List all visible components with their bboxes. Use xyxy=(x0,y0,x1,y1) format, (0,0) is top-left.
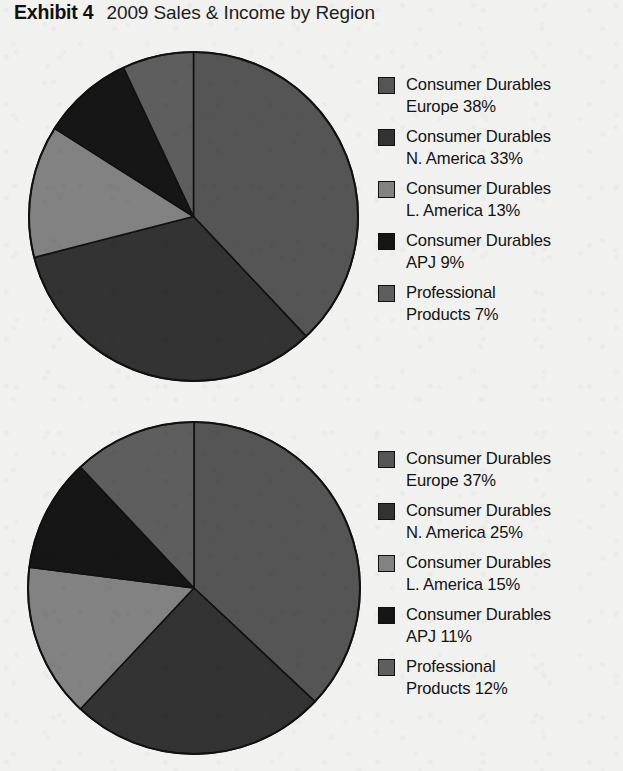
legend-swatch-icon xyxy=(378,285,395,302)
legend-label: Consumer Durables APJ 9% xyxy=(406,230,551,273)
legend-swatch-icon xyxy=(378,77,395,94)
legend-label: Consumer Durables N. America 25% xyxy=(406,500,551,543)
legend-item: Consumer Durables L. America 15% xyxy=(378,552,623,595)
legend-swatch-icon xyxy=(378,555,395,572)
legend-item: Consumer Durables N. America 33% xyxy=(378,126,623,169)
legend-swatch-icon xyxy=(378,607,395,624)
legend-swatch-icon xyxy=(378,129,395,146)
legend-item: Consumer Durables Europe 38% xyxy=(378,74,623,117)
legend-label: Consumer Durables L. America 13% xyxy=(406,178,551,221)
exhibit-title-text: 2009 Sales & Income by Region xyxy=(106,2,375,23)
legend-label: Consumer Durables L. America 15% xyxy=(406,552,551,595)
legend-item: Consumer Durables L. America 13% xyxy=(378,178,623,221)
legend-item: Consumer Durables APJ 11% xyxy=(378,604,623,647)
legend-item: Professional Products 12% xyxy=(378,656,623,699)
legend-label: Consumer Durables Europe 37% xyxy=(406,448,551,491)
income-pie-legend: Consumer Durables Europe 37%Consumer Dur… xyxy=(378,448,623,708)
legend-item: Professional Products 7% xyxy=(378,282,623,325)
legend-label: Consumer Durables Europe 38% xyxy=(406,74,551,117)
legend-swatch-icon xyxy=(378,451,395,468)
sales-pie-chart xyxy=(27,50,360,383)
sales-pie-legend: Consumer Durables Europe 38%Consumer Dur… xyxy=(378,74,623,334)
legend-swatch-icon xyxy=(378,659,395,676)
legend-swatch-icon xyxy=(378,233,395,250)
page-title: Exhibit 42009 Sales & Income by Region xyxy=(14,1,375,24)
income-pie-chart xyxy=(26,420,362,756)
legend-swatch-icon xyxy=(378,181,395,198)
legend-item: Consumer Durables Europe 37% xyxy=(378,448,623,491)
legend-item: Consumer Durables N. America 25% xyxy=(378,500,623,543)
legend-label: Consumer Durables N. America 33% xyxy=(406,126,551,169)
legend-label: Professional Products 12% xyxy=(406,656,508,699)
legend-label: Consumer Durables APJ 11% xyxy=(406,604,551,647)
legend-item: Consumer Durables APJ 9% xyxy=(378,230,623,273)
legend-label: Professional Products 7% xyxy=(406,282,498,325)
legend-swatch-icon xyxy=(378,503,395,520)
exhibit-number-label: Exhibit 4 xyxy=(14,1,93,23)
